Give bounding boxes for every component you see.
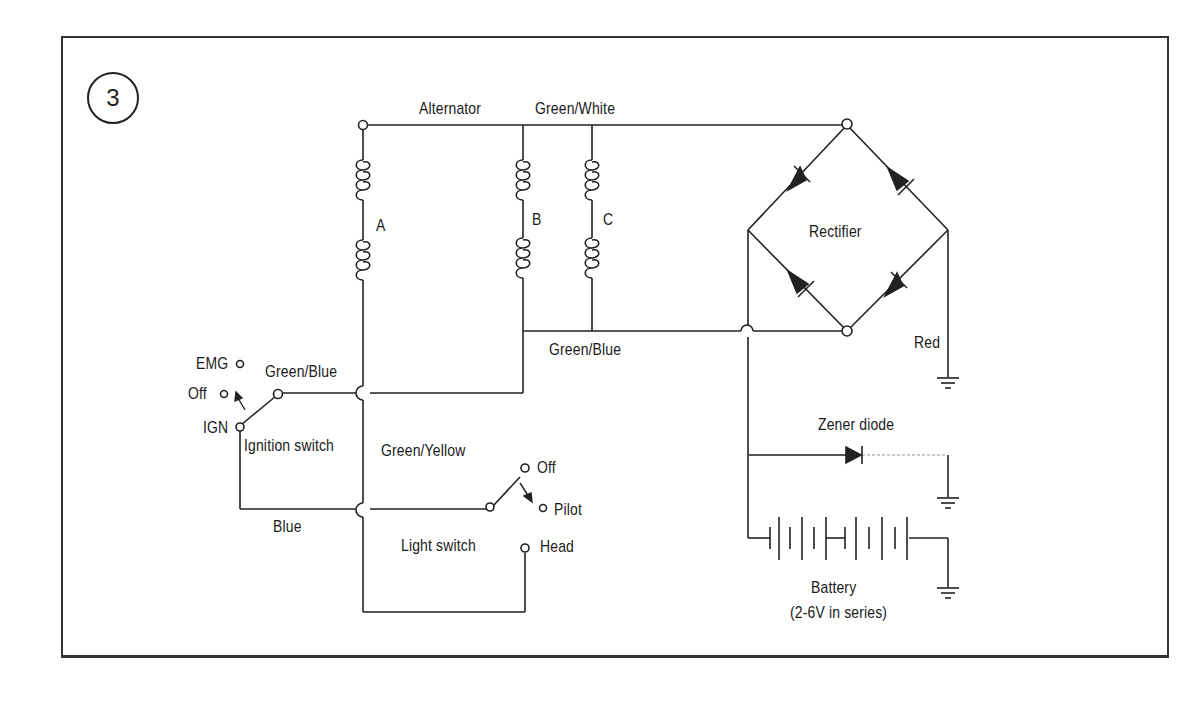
label-pilot: Pilot <box>554 500 582 520</box>
label-blue: Blue <box>273 517 302 537</box>
label-coil-c: C <box>603 210 613 230</box>
label-ign-off: Off <box>188 384 207 404</box>
label-rectifier: Rectifier <box>809 222 862 242</box>
coil-a-upper-icon <box>356 160 370 200</box>
label-battery: Battery <box>811 578 856 598</box>
label-coil-b: B <box>532 210 541 230</box>
battery-icon <box>770 517 907 560</box>
label-coil-a: A <box>376 216 385 236</box>
label-green-blue-switch: Green/Blue <box>265 362 337 382</box>
coil-a-lower-icon <box>356 240 370 280</box>
label-light-switch: Light switch <box>401 536 476 556</box>
ground-icon <box>937 498 959 508</box>
ground-icon <box>937 588 959 598</box>
zener-diode-icon <box>846 447 861 463</box>
label-red: Red <box>914 333 940 353</box>
label-zener-diode: Zener diode <box>818 415 894 435</box>
ground-icon <box>937 378 959 388</box>
label-head: Head <box>540 537 574 557</box>
label-emg: EMG <box>196 354 228 374</box>
label-battery-spec: (2-6V in series) <box>790 603 887 623</box>
rectifier-diode-icon <box>888 168 908 190</box>
label-green-yellow: Green/Yellow <box>381 441 465 461</box>
label-ign: IGN <box>203 418 228 438</box>
label-green-blue-main: Green/Blue <box>549 340 621 360</box>
label-ignition-switch: Ignition switch <box>244 436 334 456</box>
ignition-arrow-icon <box>235 392 242 401</box>
label-alternator: Alternator <box>419 99 481 119</box>
label-green-white: Green/White <box>535 99 615 119</box>
light-arrow-icon <box>524 493 532 502</box>
label-light-off: Off <box>537 458 556 478</box>
